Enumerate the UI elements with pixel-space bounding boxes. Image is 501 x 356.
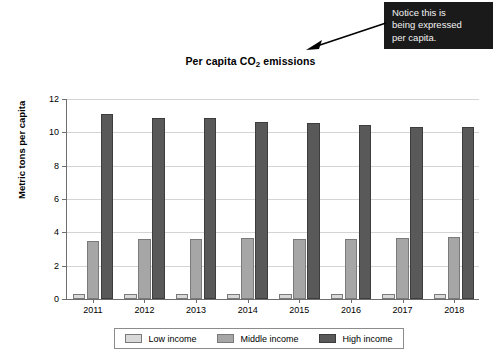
y-tick-mark [62,232,66,233]
bar-2017-high-income [410,127,423,300]
y-tick-mark [62,199,66,200]
chart-title-subscript: 2 [256,60,261,69]
y-tick-mark [62,99,66,100]
bar-2016-middle-income [345,239,358,299]
bar-group-2016 [331,99,372,299]
bar-2015-high-income [307,123,320,299]
bar-2015-middle-income [293,239,306,299]
bar-2016-high-income [359,125,372,299]
x-tick-mark [196,299,197,303]
bar-2018-high-income [462,127,475,299]
legend-item-high-income[interactable]: High income [319,334,392,344]
bar-group-2014 [227,99,268,299]
bar-2011-middle-income [87,241,100,299]
x-tick-mark [351,299,352,303]
bar-2018-low-income [434,294,447,299]
legend-swatch-icon [125,334,142,343]
bar-group-2013 [176,99,217,299]
bar-2013-low-income [176,294,189,299]
y-tick-mark [62,132,66,133]
legend-label: Middle income [240,334,298,344]
bar-2011-low-income [73,294,86,299]
y-tick-mark [62,266,66,267]
annotation-line-2: being expressed [392,19,486,31]
chart-legend: Low incomeMiddle incomeHigh income [114,328,404,349]
y-tick-label: 0 [54,294,59,304]
x-tick-label-2018: 2018 [444,305,464,315]
x-tick-label-2011: 2011 [83,305,102,315]
legend-label: Low income [148,334,196,344]
plot-area: 024681012 201120122013201420152016201720… [66,99,479,300]
bar-group-2018 [434,99,475,299]
bar-2012-middle-income [138,239,151,299]
x-tick-mark [403,299,404,303]
annotation-line-3: per capita. [392,32,486,44]
x-tick-label-2016: 2016 [341,305,361,315]
bar-2018-middle-income [448,237,461,300]
annotation-line-1: Notice this is [392,7,486,19]
bar-group-2015 [279,99,320,299]
bar-2011-high-income [101,114,114,299]
y-tick-label: 4 [54,227,59,237]
y-tick-label: 12 [49,94,59,104]
legend-swatch-icon [319,334,336,343]
x-tick-label-2015: 2015 [289,305,309,315]
y-tick-label: 10 [49,127,59,137]
x-tick-label-2012: 2012 [134,305,154,315]
x-tick-mark [248,299,249,303]
chart-title-suffix: emissions [260,55,315,67]
y-tick-label: 2 [54,261,59,271]
legend-swatch-icon [217,334,234,343]
bar-2012-high-income [152,118,165,299]
bar-2016-low-income [331,294,344,299]
x-tick-label-2013: 2013 [186,305,206,315]
annotation-arrow-icon [298,20,390,54]
bar-2012-low-income [124,294,137,299]
x-tick-mark [454,299,455,303]
bar-group-2017 [382,99,423,299]
legend-item-low-income[interactable]: Low income [125,334,196,344]
bar-group-2012 [124,99,165,299]
x-tick-mark [93,299,94,303]
x-tick-mark [299,299,300,303]
bar-2014-high-income [255,122,268,300]
chart-title-prefix: Per capita CO [185,55,255,67]
y-axis-title: Metric tons per capita [16,101,27,199]
bar-2017-middle-income [396,238,409,299]
bar-2015-low-income [279,294,292,299]
bar-2013-middle-income [190,239,203,300]
x-tick-label-2017: 2017 [393,305,413,315]
y-tick-label: 6 [54,194,59,204]
legend-item-middle-income[interactable]: Middle income [217,334,298,344]
bar-2017-low-income [382,294,395,299]
bar-2013-high-income [204,118,217,299]
bar-group-2011 [73,99,114,299]
bar-2014-middle-income [241,238,254,299]
annotation-callout-box: Notice this is being expressed per capit… [384,2,493,49]
y-tick-mark [62,166,66,167]
x-tick-label-2014: 2014 [238,305,258,315]
x-tick-mark [144,299,145,303]
y-tick-mark [62,299,66,300]
x-axis-line [66,299,479,300]
chart-title: Per capita CO2 emissions [0,55,501,67]
y-tick-label: 8 [54,161,59,171]
bar-2014-low-income [227,294,240,299]
legend-label: High income [342,334,392,344]
